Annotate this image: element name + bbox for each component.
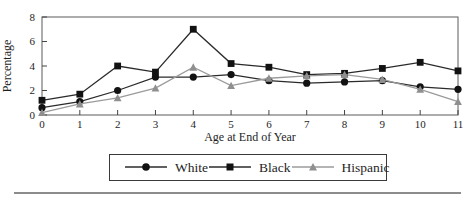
square-marker-icon (190, 26, 197, 33)
series-line-white (42, 75, 458, 108)
y-tick-label: 0 (30, 109, 36, 121)
square-marker-icon (227, 163, 234, 170)
x-tick-label: 10 (415, 118, 427, 130)
x-tick-label: 7 (304, 118, 310, 130)
legend-label-black: Black (259, 160, 291, 176)
horizontal-divider (14, 192, 461, 194)
circle-marker-icon (190, 73, 197, 80)
series-line-hispanic (42, 67, 458, 112)
figure-line-chart: 0246801234567891011Age at End of YearPer… (0, 0, 475, 204)
y-tick-label: 4 (30, 60, 36, 72)
square-marker-icon (417, 59, 424, 66)
legend-sample-hispanic (291, 161, 335, 173)
series-markers-hispanic (38, 63, 462, 116)
circle-marker-icon (341, 78, 348, 85)
x-tick-label: 11 (453, 118, 464, 130)
y-tick-label: 2 (30, 84, 36, 96)
triangle-marker-icon (152, 84, 160, 91)
square-marker-icon (266, 64, 273, 71)
x-tick-label: 3 (153, 118, 159, 130)
y-axis-title: Percentage (0, 40, 14, 93)
legend-label-white: White (175, 160, 208, 176)
square-marker-icon (76, 91, 83, 98)
x-tick-label: 2 (115, 118, 121, 130)
legend-sample-black (208, 161, 252, 173)
legend-item-white: White (124, 159, 208, 177)
circle-marker-icon (114, 87, 121, 94)
square-marker-icon (228, 60, 235, 67)
triangle-marker-icon (189, 63, 197, 70)
square-marker-icon (39, 97, 46, 104)
circle-marker-icon (303, 80, 310, 87)
x-tick-label: 5 (228, 118, 234, 130)
chart-legend: White Black Hispanic (109, 154, 387, 181)
series-line-black (42, 29, 458, 100)
circle-marker-icon (454, 86, 461, 93)
line-chart: 0246801234567891011Age at End of YearPer… (0, 0, 475, 150)
x-tick-label: 1 (77, 118, 83, 130)
circle-marker-icon (124, 159, 168, 177)
circle-marker-icon (227, 71, 234, 78)
x-tick-label: 6 (266, 118, 272, 130)
y-tick-label: 8 (30, 11, 36, 23)
legend-sample-white (124, 161, 168, 173)
square-marker-icon (379, 65, 386, 72)
x-tick-label: 8 (342, 118, 348, 130)
legend-item-hispanic: Hispanic (291, 159, 390, 177)
triangle-marker-icon (291, 159, 335, 177)
x-tick-label: 9 (380, 118, 386, 130)
x-tick-label: 0 (39, 118, 45, 130)
legend-item-black: Black (208, 159, 291, 177)
square-marker-icon (152, 69, 159, 76)
x-axis-title: Age at End of Year (204, 130, 296, 144)
y-tick-label: 6 (30, 35, 36, 47)
legend-label-hispanic: Hispanic (342, 160, 390, 176)
square-marker-icon (455, 68, 462, 75)
square-marker-icon (114, 63, 121, 70)
x-tick-label: 4 (191, 118, 197, 130)
square-marker-icon (208, 159, 252, 177)
circle-marker-icon (142, 163, 150, 171)
